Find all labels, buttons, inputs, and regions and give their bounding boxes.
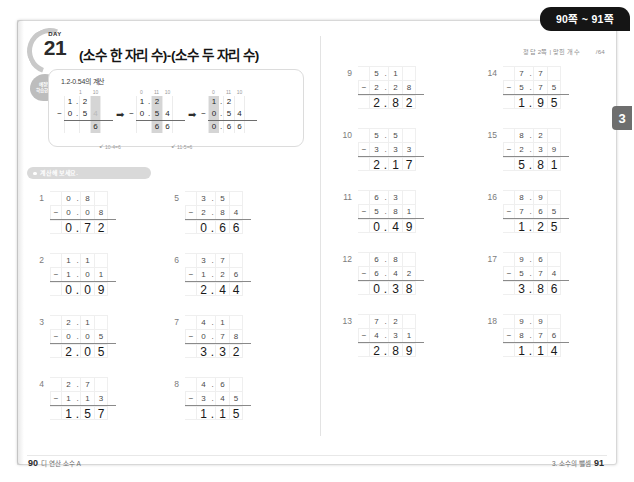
operand-digit[interactable]: 0: [61, 329, 75, 343]
operand-digit[interactable]: 9: [547, 142, 561, 156]
operand-digit[interactable]: 1: [80, 315, 94, 329]
operand-digit[interactable]: 2: [388, 80, 402, 94]
answer-digit[interactable]: 2: [196, 282, 210, 296]
operand-digit[interactable]: [229, 253, 243, 267]
operand-digit[interactable]: 0: [80, 267, 94, 281]
operand-digit[interactable]: 6: [369, 266, 383, 280]
answer-digit[interactable]: 8: [533, 281, 547, 295]
answer-digit[interactable]: 8: [388, 343, 402, 357]
operand-digit[interactable]: 1: [402, 204, 416, 218]
answer-digit[interactable]: 1: [533, 343, 547, 357]
answer-digit[interactable]: 7: [80, 220, 94, 234]
answer-digit[interactable]: 3: [215, 344, 229, 358]
operand-digit[interactable]: 0: [80, 205, 94, 219]
operand-digit[interactable]: 7: [514, 204, 528, 218]
operand-digit[interactable]: [547, 252, 561, 266]
operand-digit[interactable]: 6: [533, 204, 547, 218]
answer-digit[interactable]: 4: [215, 282, 229, 296]
operand-digit[interactable]: 5: [547, 204, 561, 218]
operand-digit[interactable]: 6: [215, 377, 229, 391]
operand-digit[interactable]: 3: [196, 391, 210, 405]
operand-digit[interactable]: 3: [94, 391, 108, 405]
operand-digit[interactable]: 3: [369, 142, 383, 156]
operand-digit[interactable]: 9: [533, 190, 547, 204]
operand-digit[interactable]: 9: [514, 314, 528, 328]
operand-digit[interactable]: 2: [388, 314, 402, 328]
operand-digit[interactable]: 2: [215, 267, 229, 281]
operand-digit[interactable]: 4: [388, 266, 402, 280]
operand-digit[interactable]: 3: [196, 191, 210, 205]
operand-digit[interactable]: 1: [61, 391, 75, 405]
answer-digit[interactable]: 2: [229, 344, 243, 358]
answer-digit[interactable]: 6: [215, 220, 229, 234]
operand-digit[interactable]: 2: [402, 266, 416, 280]
operand-digit[interactable]: [402, 314, 416, 328]
answer-digit[interactable]: 2: [369, 95, 383, 109]
operand-digit[interactable]: 1: [388, 66, 402, 80]
operand-digit[interactable]: 7: [215, 329, 229, 343]
operand-digit[interactable]: 6: [369, 252, 383, 266]
operand-digit[interactable]: 2: [196, 205, 210, 219]
operand-digit[interactable]: 0: [80, 329, 94, 343]
operand-digit[interactable]: 7: [533, 66, 547, 80]
operand-digit[interactable]: 9: [514, 252, 528, 266]
answer-digit[interactable]: 3: [388, 281, 402, 295]
operand-digit[interactable]: 0: [196, 329, 210, 343]
operand-digit[interactable]: 5: [547, 80, 561, 94]
answer-digit[interactable]: 1: [215, 406, 229, 420]
answer-digit[interactable]: 2: [369, 157, 383, 171]
operand-digit[interactable]: [402, 66, 416, 80]
answer-digit[interactable]: 5: [229, 406, 243, 420]
operand-digit[interactable]: 1: [61, 267, 75, 281]
answer-digit[interactable]: 4: [229, 282, 243, 296]
operand-digit[interactable]: 6: [229, 267, 243, 281]
answer-digit[interactable]: 2: [94, 220, 108, 234]
answer-digit[interactable]: 1: [196, 406, 210, 420]
answer-digit[interactable]: 0: [369, 281, 383, 295]
operand-digit[interactable]: 0: [61, 205, 75, 219]
operand-digit[interactable]: [94, 377, 108, 391]
answer-digit[interactable]: 2: [61, 344, 75, 358]
operand-digit[interactable]: 1: [94, 267, 108, 281]
operand-digit[interactable]: 9: [533, 314, 547, 328]
operand-digit[interactable]: 7: [215, 253, 229, 267]
operand-digit[interactable]: 5: [514, 80, 528, 94]
operand-digit[interactable]: 2: [61, 377, 75, 391]
operand-digit[interactable]: 5: [94, 329, 108, 343]
operand-digit[interactable]: [229, 377, 243, 391]
operand-digit[interactable]: [402, 190, 416, 204]
operand-digit[interactable]: 4: [369, 328, 383, 342]
operand-digit[interactable]: [94, 315, 108, 329]
operand-digit[interactable]: 8: [514, 190, 528, 204]
answer-digit[interactable]: 1: [547, 157, 561, 171]
operand-digit[interactable]: 5: [514, 266, 528, 280]
operand-digit[interactable]: 8: [388, 252, 402, 266]
answer-digit[interactable]: 9: [94, 282, 108, 296]
operand-digit[interactable]: [402, 128, 416, 142]
operand-digit[interactable]: 8: [94, 205, 108, 219]
operand-digit[interactable]: 5: [215, 191, 229, 205]
operand-digit[interactable]: 3: [388, 190, 402, 204]
answer-digit[interactable]: 1: [514, 95, 528, 109]
answer-digit[interactable]: 2: [402, 95, 416, 109]
operand-digit[interactable]: 6: [369, 190, 383, 204]
operand-digit[interactable]: 6: [547, 328, 561, 342]
operand-digit[interactable]: 4: [229, 205, 243, 219]
answer-digit[interactable]: 3: [514, 281, 528, 295]
operand-digit[interactable]: 5: [388, 128, 402, 142]
operand-digit[interactable]: [94, 191, 108, 205]
answer-digit[interactable]: 8: [402, 281, 416, 295]
answer-digit[interactable]: 6: [229, 220, 243, 234]
operand-digit[interactable]: 4: [547, 266, 561, 280]
answer-digit[interactable]: 0: [80, 344, 94, 358]
answer-digit[interactable]: 8: [533, 157, 547, 171]
operand-digit[interactable]: 1: [402, 328, 416, 342]
answer-digit[interactable]: 3: [196, 344, 210, 358]
operand-digit[interactable]: 2: [369, 80, 383, 94]
operand-digit[interactable]: 8: [514, 128, 528, 142]
operand-digit[interactable]: 1: [80, 253, 94, 267]
answer-digit[interactable]: 0: [80, 282, 94, 296]
operand-digit[interactable]: [402, 252, 416, 266]
operand-digit[interactable]: 7: [533, 80, 547, 94]
answer-digit[interactable]: 5: [547, 95, 561, 109]
